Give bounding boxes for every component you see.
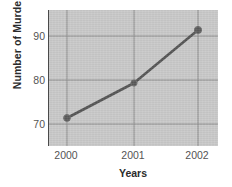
vertical-gridlines: [67, 10, 198, 146]
x-tick-label: 2002: [175, 149, 219, 161]
data-point-marker: [131, 80, 137, 86]
data-point-marker: [64, 115, 71, 122]
y-axis-tick-labels: 90 80 70: [18, 0, 45, 187]
plot-area: [48, 10, 218, 146]
x-tick-label: 2000: [44, 149, 88, 161]
y-tick-label: 80: [23, 75, 45, 86]
x-axis-tick-labels: 2000 2001 2002: [48, 149, 232, 165]
data-point-marker: [194, 26, 201, 33]
data-markers: [64, 26, 202, 121]
y-tick-label: 90: [23, 31, 45, 42]
line-chart-figure: Number of Murders 90 80 70: [0, 0, 232, 187]
chart-canvas: [49, 10, 218, 146]
y-tick-label: 70: [23, 119, 45, 130]
x-axis-title: Years: [48, 167, 218, 179]
data-line: [67, 30, 198, 118]
x-tick-label: 2001: [111, 149, 155, 161]
